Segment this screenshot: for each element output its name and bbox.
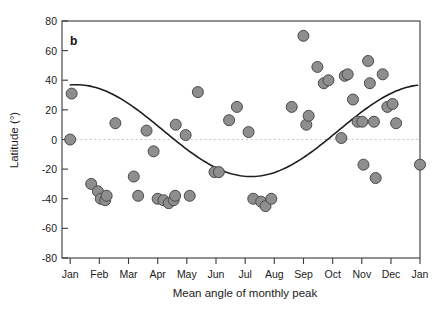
data-point <box>243 127 254 138</box>
y-axis-title: Latitude (°) <box>8 112 20 169</box>
data-point <box>110 118 121 129</box>
data-point <box>336 133 347 144</box>
data-point <box>377 69 388 80</box>
y-tick-label: 80 <box>45 15 57 27</box>
data-point <box>368 116 379 127</box>
y-tick-label: -20 <box>42 163 57 175</box>
data-points-group <box>65 30 426 211</box>
data-point <box>180 130 191 141</box>
x-tick-label: Mar <box>119 268 138 280</box>
x-tick-label: Apr <box>150 268 167 280</box>
y-tick-label: -60 <box>42 222 57 234</box>
x-tick-label: Dec <box>382 268 401 280</box>
x-tick-label: Aug <box>265 268 284 280</box>
x-tick-label: Jan <box>62 268 79 280</box>
x-tick-label: May <box>177 268 198 280</box>
y-tick-label: -40 <box>42 193 57 205</box>
data-point <box>224 115 235 126</box>
data-point <box>364 78 375 89</box>
data-point <box>312 61 323 72</box>
y-tick-label: 20 <box>45 104 57 116</box>
panel-label: b <box>70 34 77 48</box>
data-point <box>357 116 368 127</box>
x-tick-label: Nov <box>352 268 371 280</box>
y-tick-label: -80 <box>42 252 57 264</box>
x-tick-label: Feb <box>90 268 108 280</box>
x-axis-title: Mean angle of monthly peak <box>173 287 318 299</box>
x-axis-tick-labels: Jan Feb Mar Apr May Jun Jul Aug Sep Oct … <box>62 268 429 280</box>
x-tick-label: Sep <box>294 268 313 280</box>
data-point <box>184 190 195 201</box>
data-point <box>192 87 203 98</box>
data-point <box>231 101 242 112</box>
data-point <box>141 125 152 136</box>
data-point <box>358 159 369 170</box>
data-point <box>391 118 402 129</box>
data-point <box>128 171 139 182</box>
data-point <box>387 98 398 109</box>
data-point <box>170 190 181 201</box>
data-point <box>65 134 76 145</box>
figure-panel-b: 80 60 40 20 0 -20 -40 -60 -80 Latitude (… <box>0 0 448 317</box>
data-point <box>286 101 297 112</box>
scatter-plot-svg: 80 60 40 20 0 -20 -40 -60 -80 Latitude (… <box>0 0 448 317</box>
data-point <box>213 167 224 178</box>
data-point <box>363 55 374 66</box>
x-axis-ticks <box>70 258 420 264</box>
data-point <box>298 30 309 41</box>
x-tick-label: Oct <box>325 268 341 280</box>
data-point <box>170 119 181 130</box>
data-point <box>101 190 112 201</box>
data-point <box>303 110 314 121</box>
y-tick-label: 60 <box>45 45 57 57</box>
data-point <box>347 94 358 105</box>
data-point <box>342 69 353 80</box>
data-point <box>266 193 277 204</box>
y-axis-tick-labels: 80 60 40 20 0 -20 -40 -60 -80 <box>42 15 57 264</box>
data-point <box>148 146 159 157</box>
data-point <box>370 173 381 184</box>
y-tick-label: 0 <box>51 134 57 146</box>
x-tick-label: Jan <box>412 268 429 280</box>
data-point <box>415 159 426 170</box>
y-tick-label: 40 <box>45 74 57 86</box>
x-tick-label: Jul <box>238 268 251 280</box>
data-point <box>66 88 77 99</box>
data-point <box>133 190 144 201</box>
data-point <box>323 75 334 86</box>
x-tick-label: Jun <box>208 268 225 280</box>
